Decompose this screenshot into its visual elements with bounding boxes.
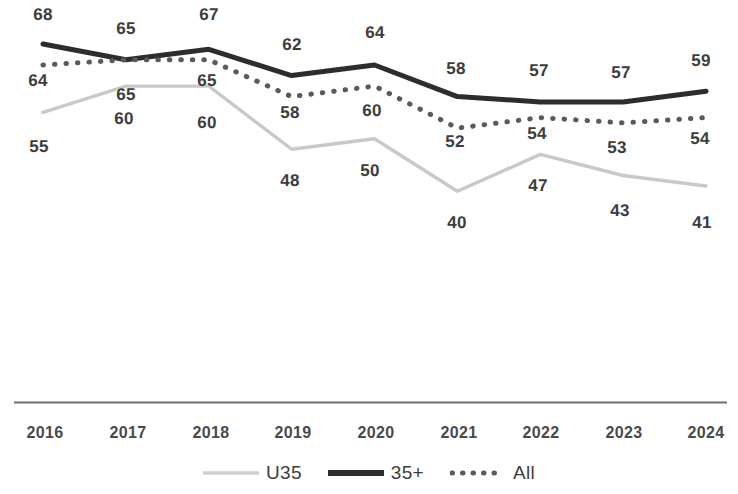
x-axis-tick-2019: 2019 bbox=[275, 424, 312, 442]
data-label-35plus-2016: 68 bbox=[33, 5, 52, 25]
x-axis-tick-2017: 2017 bbox=[110, 424, 147, 442]
legend-item-35plus[interactable]: 35+ bbox=[328, 462, 424, 484]
data-label-all-2019: 58 bbox=[280, 103, 299, 123]
line-light-solid-swatch bbox=[203, 469, 259, 477]
chart-legend: U35 35+ All bbox=[0, 462, 738, 484]
data-label-u35-2022: 47 bbox=[528, 176, 547, 196]
line-dark-solid-swatch bbox=[328, 469, 384, 477]
data-label-u35-2021: 40 bbox=[447, 213, 466, 233]
data-label-35plus-2021: 58 bbox=[446, 59, 465, 79]
x-axis-tick-2023: 2023 bbox=[606, 424, 643, 442]
legend-label-u35: U35 bbox=[266, 462, 302, 484]
data-label-35plus-2023: 57 bbox=[611, 63, 630, 83]
line-chart: 68 65 67 62 64 58 57 57 59 64 65 65 58 6… bbox=[0, 0, 738, 494]
data-label-all-2017: 65 bbox=[116, 85, 135, 105]
data-label-u35-2020: 50 bbox=[360, 161, 379, 181]
legend-label-all: All bbox=[513, 462, 535, 484]
data-label-all-2020: 60 bbox=[362, 101, 381, 121]
data-label-u35-2017: 60 bbox=[114, 109, 133, 129]
data-label-all-2022: 54 bbox=[527, 124, 546, 144]
data-label-35plus-2017: 65 bbox=[116, 19, 135, 39]
x-axis-tick-2020: 2020 bbox=[358, 424, 395, 442]
legend-label-35plus: 35+ bbox=[391, 462, 424, 484]
legend-item-all[interactable]: All bbox=[450, 462, 535, 484]
data-label-u35-2019: 48 bbox=[280, 171, 299, 191]
data-label-u35-2018: 60 bbox=[197, 113, 216, 133]
data-label-all-2021: 52 bbox=[445, 132, 464, 152]
x-axis-tick-2016: 2016 bbox=[27, 424, 64, 442]
data-label-all-2023: 53 bbox=[607, 138, 626, 158]
data-label-35plus-2018: 67 bbox=[199, 5, 218, 25]
data-label-35plus-2019: 62 bbox=[282, 35, 301, 55]
x-axis-tick-2024: 2024 bbox=[688, 424, 725, 442]
data-label-35plus-2024: 59 bbox=[691, 51, 710, 71]
data-label-35plus-2022: 57 bbox=[529, 61, 548, 81]
data-label-u35-2016: 55 bbox=[29, 137, 48, 157]
legend-item-u35[interactable]: U35 bbox=[203, 462, 302, 484]
x-axis-tick-2022: 2022 bbox=[523, 424, 560, 442]
data-label-all-2024: 54 bbox=[690, 129, 709, 149]
series-line-35plus bbox=[43, 44, 706, 102]
x-axis-tick-2021: 2021 bbox=[441, 424, 478, 442]
data-label-all-2018: 65 bbox=[197, 71, 216, 91]
data-label-all-2016: 64 bbox=[28, 71, 47, 91]
x-axis-tick-2018: 2018 bbox=[193, 424, 230, 442]
data-label-u35-2023: 43 bbox=[610, 201, 629, 221]
data-label-35plus-2020: 64 bbox=[365, 23, 384, 43]
data-label-u35-2024: 41 bbox=[692, 213, 711, 233]
line-dotted-swatch bbox=[450, 469, 506, 477]
